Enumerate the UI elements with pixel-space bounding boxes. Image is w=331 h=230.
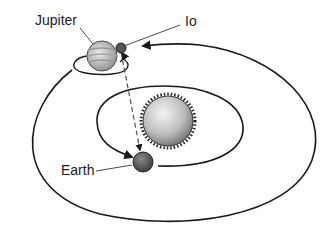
orbit-diagram (0, 0, 331, 230)
light-path-dashed (121, 52, 140, 150)
earth-label: Earth (61, 163, 94, 177)
jupiter-leader (80, 28, 93, 44)
sun-icon (141, 94, 195, 148)
earth-leader (96, 165, 132, 171)
io-leader (124, 25, 180, 46)
io-icon (116, 43, 126, 53)
diagram-canvas: Jupiter Io Earth (0, 0, 331, 230)
jupiter-icon (87, 41, 117, 71)
jupiter-label: Jupiter (35, 13, 77, 27)
earth-icon (133, 152, 153, 172)
io-label: Io (185, 14, 197, 28)
